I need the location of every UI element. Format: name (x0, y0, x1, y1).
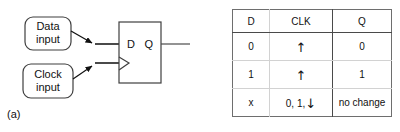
flipflop-schematic: Data input Clock input D (0, 0, 200, 132)
caption-a: (a) (7, 108, 20, 120)
figure-container: Data input Clock input D (0, 0, 400, 132)
data-input-arrow (71, 31, 92, 43)
cell-d-row1: 0 (233, 33, 270, 61)
panel-b-truth-table: D CLK Q 0 ↑ 0 1 ↑ 1 (232, 9, 388, 112)
header-d: D (233, 10, 270, 33)
data-input-label-line1: Data (36, 20, 60, 32)
header-q: Q (333, 10, 392, 33)
clock-input-label-line2: input (36, 81, 60, 93)
truth-table: D CLK Q 0 ↑ 0 1 ↑ 1 (232, 9, 392, 117)
cell-q-row2: 1 (333, 61, 392, 89)
cell-d-row2: 1 (233, 61, 270, 89)
table-header-row: D CLK Q (233, 10, 392, 33)
table-row: 1 ↑ 1 (233, 61, 392, 89)
cell-clk-row2: ↑ (270, 61, 333, 89)
cell-q-row3: no change (333, 89, 392, 117)
rising-edge-arrow-icon: ↑ (296, 68, 307, 83)
data-input-label-line2: input (36, 33, 60, 45)
cell-q-row1: 0 (333, 33, 392, 61)
cell-d-row3: x (233, 89, 270, 117)
clock-input-arrow (73, 66, 92, 79)
panel-a-flipflop-diagram: Data input Clock input D (0, 0, 200, 132)
table-row: x 0, 1,↓ no change (233, 89, 392, 117)
table-row: 0 ↑ 0 (233, 33, 392, 61)
cell-clk-row3: 0, 1,↓ (270, 89, 333, 117)
cell-clk-row3-text: 0, 1, (286, 98, 305, 109)
clock-input-label-line1: Clock (34, 68, 62, 80)
flipflop-d-pin-label: D (127, 38, 135, 50)
rising-edge-arrow-icon: ↑ (296, 40, 307, 55)
header-clk: CLK (270, 10, 333, 33)
falling-edge-arrow-icon: ↓ (305, 96, 316, 111)
flipflop-body (119, 22, 161, 83)
flipflop-q-pin-label: Q (144, 38, 153, 50)
cell-clk-row1: ↑ (270, 33, 333, 61)
